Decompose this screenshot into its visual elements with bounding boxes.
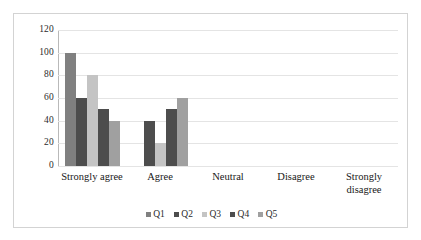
category-label-1: Agree (126, 170, 194, 183)
legend-swatch-icon-Q3 (202, 212, 207, 217)
x-axis-category-labels: Strongly agreeAgreeNeutralDisagreeStrong… (58, 170, 398, 210)
category-label-3: Disagree (262, 170, 330, 183)
plot-area (58, 30, 398, 166)
legend-label-Q3: Q3 (209, 210, 221, 220)
bar-group-3 (269, 30, 324, 166)
legend-item-Q5[interactable]: Q5 (258, 210, 277, 220)
legend-label-Q2: Q2 (181, 210, 193, 220)
category-label-4: Strongly disagree (330, 170, 398, 196)
bar-Q5-1[interactable] (177, 98, 188, 166)
y-tick-label-60: 60 (14, 93, 54, 103)
bar-Q4-1[interactable] (166, 109, 177, 166)
bar-Q2-0[interactable] (76, 98, 87, 166)
y-tick-label-20: 20 (14, 139, 54, 149)
chart-legend: Q1Q2Q3Q4Q5 (14, 210, 409, 220)
legend-swatch-icon-Q4 (230, 212, 235, 217)
bar-group-1 (133, 30, 188, 166)
y-tick-label-120: 120 (14, 25, 54, 35)
bar-group-0 (65, 30, 120, 166)
gridline-0 (58, 166, 398, 167)
bar-Q4-0[interactable] (98, 109, 109, 166)
category-label-2: Neutral (194, 170, 262, 183)
legend-label-Q5: Q5 (266, 210, 278, 220)
bar-group-2 (201, 30, 256, 166)
legend-swatch-icon-Q1 (146, 212, 151, 217)
bar-Q3-0[interactable] (87, 75, 98, 166)
legend-label-Q4: Q4 (238, 210, 250, 220)
legend-swatch-icon-Q5 (258, 212, 263, 217)
y-tick-label-80: 80 (14, 71, 54, 81)
category-label-0: Strongly agree (58, 170, 126, 183)
bar-Q2-1[interactable] (144, 121, 155, 166)
bar-group-4 (337, 30, 392, 166)
y-tick-label-100: 100 (14, 48, 54, 58)
bar-Q5-0[interactable] (109, 121, 120, 166)
y-axis-tick-labels: 120100806040200 (14, 30, 54, 166)
bar-Q1-0[interactable] (65, 53, 76, 166)
legend-label-Q1: Q1 (153, 210, 165, 220)
legend-item-Q1[interactable]: Q1 (146, 210, 165, 220)
legend-item-Q3[interactable]: Q3 (202, 210, 221, 220)
legend-item-Q4[interactable]: Q4 (230, 210, 249, 220)
legend-swatch-icon-Q2 (174, 212, 179, 217)
legend-item-Q2[interactable]: Q2 (174, 210, 193, 220)
y-tick-label-0: 0 (14, 161, 54, 171)
bar-Q3-1[interactable] (155, 143, 166, 166)
y-tick-label-40: 40 (14, 116, 54, 126)
chart-frame: 120100806040200 Strongly agreeAgreeNeutr… (13, 13, 408, 228)
